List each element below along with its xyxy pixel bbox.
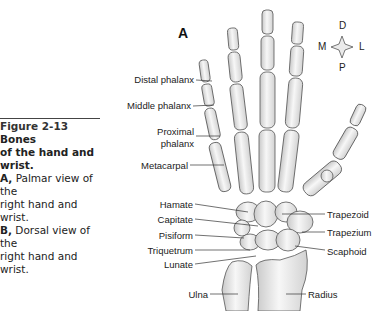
label-hamate: Hamate — [100, 199, 193, 210]
label-capitate: Capitate — [100, 214, 193, 225]
orientation-compass-icon — [331, 36, 353, 58]
label-lunate: Lunate — [100, 259, 193, 270]
index-finger — [277, 22, 304, 193]
radius-bone — [256, 250, 307, 311]
compass-lateral: L — [359, 41, 365, 52]
compass-dorsal: D — [339, 20, 346, 31]
label-ulna: Ulna — [150, 289, 208, 300]
label-proximal-phalanx-2: phalanx — [100, 138, 194, 149]
label-triquetrum: Triquetrum — [100, 245, 193, 256]
little-finger — [199, 59, 232, 192]
compass-medial: M — [318, 41, 326, 52]
label-pisiform: Pisiform — [100, 230, 193, 241]
compass-proximal: P — [339, 62, 346, 73]
carpal-bones — [234, 201, 313, 251]
label-trapezium: Trapezium — [327, 227, 372, 238]
label-scaphoid: Scaphoid — [327, 246, 367, 257]
middle-finger — [259, 10, 275, 192]
label-middle-phalanx: Middle phalanx — [90, 100, 191, 111]
ulna-bone — [222, 261, 252, 311]
label-proximal-phalanx-1: Proximal — [100, 126, 194, 137]
label-metacarpal: Metacarpal — [100, 160, 188, 171]
thumb — [301, 103, 368, 198]
label-trapezoid: Trapezoid — [327, 209, 369, 220]
ring-finger — [227, 28, 254, 195]
label-radius: Radius — [308, 289, 338, 300]
label-distal-phalanx: Distal phalanx — [100, 74, 194, 85]
